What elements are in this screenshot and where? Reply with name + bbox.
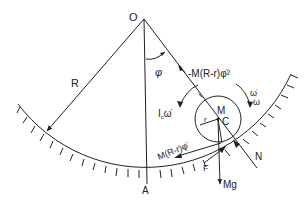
label-N: N	[255, 151, 262, 162]
rot-inertia-arc	[180, 85, 198, 106]
label-F: F	[203, 163, 209, 173]
centrifugal-arrow-icon	[178, 64, 183, 71]
label-R: R	[71, 77, 79, 89]
label-omega: ω	[253, 97, 260, 107]
label-tangential: M(R-r)φ̈	[156, 140, 191, 162]
radius-r-line	[200, 119, 218, 125]
radius-R-line	[47, 19, 144, 131]
label-Mg: Mg	[223, 179, 237, 190]
vertical-line-OA	[144, 19, 147, 184]
label-phi: φ	[155, 66, 162, 78]
radial-line-OCN	[144, 19, 257, 168]
label-rot-inertia: Icω̇	[158, 108, 173, 120]
label-A: A	[142, 185, 149, 196]
label-C: C	[222, 116, 229, 127]
label-O: O	[129, 11, 138, 23]
label-centrifugal: -M(R-r)φ̇²	[188, 68, 231, 79]
rot-inertia-arrow-icon	[177, 101, 183, 108]
label-M: M	[217, 105, 225, 116]
fbd-diagram: O A R φ -M(R-r)φ̇² M C r Icω̇ ω̇ ω M(R-r…	[0, 0, 304, 204]
label-r: r	[204, 115, 207, 124]
